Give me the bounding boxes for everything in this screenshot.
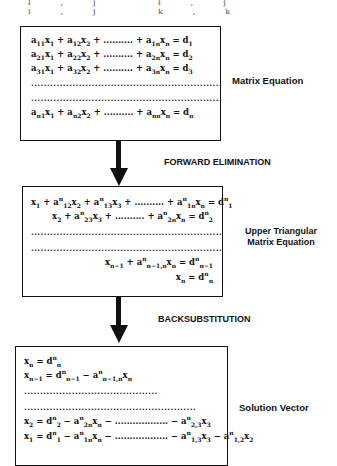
cropped-top-text: i,j i,j i,j k,k <box>28 0 337 16</box>
ellipsis-row: ........................................… <box>31 228 222 236</box>
triangular-row-n-1: xn−1 + ann−1,nxn = dnn−1 <box>105 257 213 267</box>
equation-row-n: an1x1 + an2x2 + .......... + annxn = dn <box>31 107 193 117</box>
forward-elimination-label: FORWARD ELIMINATION <box>164 157 271 167</box>
label-line-1: Upper Triangular <box>232 226 330 237</box>
label-line-2: Matrix Equation <box>232 237 330 248</box>
triangular-row-2: x2 + an23x3 + .......... + an2nxn = dn2 <box>52 211 213 221</box>
solution-vector-label: Solution Vector <box>239 402 309 413</box>
ellipsis-row: ........................................… <box>31 79 222 87</box>
solution-row-n: xn = dnn <box>24 356 61 366</box>
arrow-shaft <box>116 141 121 171</box>
solution-vector-box: xn = dnn xn−1 = dnn−1 − ann−1,nxn ......… <box>15 346 228 466</box>
ellipsis-row: ........................................… <box>31 94 222 102</box>
backsubstitution-label: BACKSUBSTITUTION <box>158 314 251 324</box>
solution-row-2: x2 = dn2 − an2nxn − .................. −… <box>24 416 211 426</box>
upper-triangular-label: Upper Triangular Matrix Equation <box>232 226 330 248</box>
equation-row-1: a11x1 + a12x2 + .......... + a1nxn = d1 <box>31 35 193 45</box>
ellipsis-row: ........................................… <box>31 244 222 252</box>
arrow-down-icon <box>110 168 128 186</box>
solution-row-1: x1 = dn1 − an1nxn − .................. −… <box>24 431 253 441</box>
matrix-equation-label: Matrix Equation <box>232 75 303 86</box>
arrow-shaft <box>116 297 121 327</box>
solution-row-n-1: xn−1 = dnn−1 − ann−1,nxn <box>24 370 132 380</box>
ellipsis-row: ........................................… <box>24 403 196 411</box>
arrow-down-icon <box>110 325 128 343</box>
equation-row-2: a21x1 + a22x2 + .......... + a2nxn = d2 <box>31 49 193 59</box>
ellipsis-row: ........................................… <box>24 387 158 395</box>
matrix-equation-box: a11x1 + a12x2 + .......... + a1nxn = d1 … <box>20 26 221 141</box>
upper-triangular-box: x1 + an12x2 + an13x3 + .......... + an1n… <box>22 186 223 297</box>
triangular-row-1: x1 + an12x2 + an13x3 + .......... + an1n… <box>31 197 233 207</box>
triangular-row-n: xn = dnn <box>176 272 213 282</box>
equation-row-3: a31x1 + a32x2 + .......... + a3nxn = d3 <box>31 63 193 73</box>
